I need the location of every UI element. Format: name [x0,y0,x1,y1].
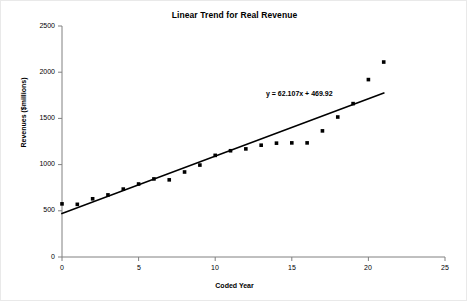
data-point-13 [259,143,263,147]
data-point-9 [198,163,202,167]
data-point-15 [290,141,294,145]
data-point-3 [106,193,110,197]
data-point-14 [275,141,279,145]
plot-area [1,1,467,301]
data-point-1 [76,203,80,207]
y-axis-ticks [58,26,62,257]
data-point-8 [183,170,187,174]
data-point-16 [305,141,309,145]
data-point-12 [244,147,248,151]
x-axis-ticks [62,257,445,261]
trendline-segment [62,93,384,214]
chart-canvas: Linear Trend for Real Revenue Revenues (… [0,0,467,301]
data-point-2 [91,197,95,201]
data-point-4 [121,187,125,191]
data-point-0 [60,202,64,206]
data-point-19 [351,102,355,106]
data-point-6 [152,177,156,181]
trend-line [62,93,384,214]
data-point-10 [213,154,217,158]
data-point-20 [367,78,371,82]
data-point-21 [382,60,386,64]
data-point-5 [137,182,141,186]
data-points [60,60,385,206]
data-point-11 [229,149,233,153]
data-point-7 [167,178,171,182]
data-point-17 [321,129,325,133]
data-point-18 [336,115,340,119]
